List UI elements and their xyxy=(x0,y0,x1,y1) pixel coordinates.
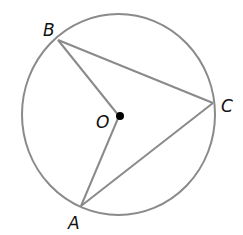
segment-bc xyxy=(58,40,213,103)
label-a: A xyxy=(67,213,80,233)
label-o: O xyxy=(96,112,109,132)
center-dot xyxy=(116,112,124,120)
circle-diagram: B C O A xyxy=(0,0,243,235)
label-c: C xyxy=(221,96,233,116)
label-b: B xyxy=(43,20,55,40)
